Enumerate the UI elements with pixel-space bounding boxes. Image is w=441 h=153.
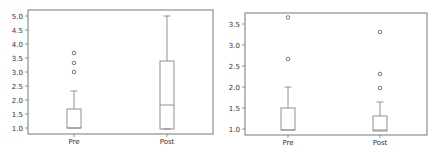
figure: 1.0 1.5 2.0 2.5 3.0 3.5 4.0 4.5 5.0 Pre … [0, 0, 441, 153]
y-tick-label: 1.5 [12, 111, 23, 119]
right-x-axis: Pre Post [282, 135, 387, 147]
y-tick-label: 2.5 [12, 83, 23, 91]
left-boxplot-chart: 1.0 1.5 2.0 2.5 3.0 3.5 4.0 4.5 5.0 Pre … [12, 10, 213, 146]
right-axes-frame [245, 13, 427, 135]
x-tick-label-pre: Pre [282, 139, 293, 147]
y-tick-label: 2.5 [229, 63, 240, 71]
y-tick-label: 1.0 [229, 126, 240, 134]
x-tick-label-post: Post [160, 138, 175, 146]
y-tick-label: 4.0 [12, 41, 23, 49]
y-tick-label: 3.5 [229, 21, 240, 29]
y-tick-label: 1.5 [229, 105, 240, 113]
left-x-axis: Pre Post [68, 134, 174, 146]
y-tick-label: 3.0 [229, 42, 240, 50]
x-tick-label-pre: Pre [68, 138, 79, 146]
y-tick-label: 3.0 [12, 69, 23, 77]
y-tick-label: 5.0 [12, 13, 23, 21]
left-axes-frame [28, 10, 213, 134]
y-tick-label: 2.0 [12, 97, 23, 105]
y-tick-label: 4.5 [12, 27, 23, 35]
left-y-axis: 1.0 1.5 2.0 2.5 3.0 3.5 4.0 4.5 5.0 [12, 13, 28, 133]
x-tick-label-post: Post [373, 139, 388, 147]
right-y-axis: 1.0 1.5 2.0 2.5 3.0 3.5 [229, 21, 245, 134]
y-tick-label: 1.0 [12, 125, 23, 133]
right-boxplot-chart: 1.0 1.5 2.0 2.5 3.0 3.5 Pre Post [229, 13, 427, 147]
y-tick-label: 2.0 [229, 84, 240, 92]
y-tick-label: 3.5 [12, 55, 23, 63]
